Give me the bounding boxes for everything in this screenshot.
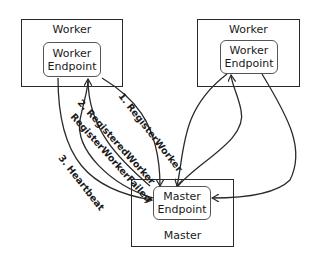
label-heartbeat: 3. Heartbeat bbox=[56, 152, 107, 213]
edge-labels: 1. RegisterWorker 2. RegisteredWorker Re… bbox=[56, 90, 185, 213]
arrow-right-to-master-1 bbox=[177, 74, 227, 186]
arrows-layer: 1. RegisterWorker 2. RegisteredWorker Re… bbox=[0, 0, 315, 260]
label-register-worker: 1. RegisterWorker bbox=[116, 90, 185, 174]
arrow-right-to-master-2 bbox=[212, 74, 296, 198]
